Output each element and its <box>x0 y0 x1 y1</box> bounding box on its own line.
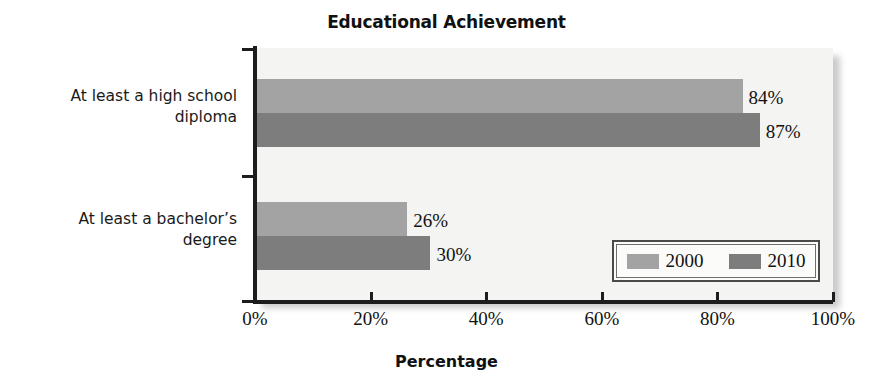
legend-entry-2010[interactable]: 2010 <box>729 250 806 272</box>
category-label-line-2: diploma <box>22 107 237 128</box>
bar-bachelors-2000[interactable] <box>257 202 407 236</box>
x-axis-tick <box>832 292 835 302</box>
chart-container: Educational Achievement At least a high … <box>0 0 893 391</box>
x-axis-tick <box>254 292 257 302</box>
y-axis-tick-middle <box>242 175 254 178</box>
legend-label-2010: 2010 <box>768 250 806 272</box>
bar-high-school-2000[interactable] <box>257 79 743 113</box>
bar-value-high-school-2010: 87% <box>766 121 801 143</box>
x-axis-tick <box>716 292 719 302</box>
legend-swatch-2010-icon <box>729 254 761 269</box>
x-axis-tick-label: 100% <box>811 308 855 330</box>
bar-value-bachelors-2000: 26% <box>413 210 448 232</box>
x-axis-tick-label: 80% <box>700 308 735 330</box>
bar-bachelors-2010[interactable] <box>257 236 430 270</box>
x-axis-tick-label: 60% <box>584 308 619 330</box>
chart-legend[interactable]: 2000 2010 <box>612 240 820 282</box>
y-axis-tick-bottom <box>242 300 254 303</box>
y-axis-tick-top <box>242 48 254 51</box>
y-axis-category-label-bachelors: At least a bachelor’s degree <box>22 209 237 251</box>
bar-high-school-2010[interactable] <box>257 113 760 147</box>
x-axis-tick-label: 0% <box>242 308 267 330</box>
x-axis-tick <box>601 292 604 302</box>
x-axis-tick <box>370 292 373 302</box>
category-label-line-1: At least a bachelor’s <box>22 209 237 230</box>
legend-entry-2000[interactable]: 2000 <box>627 250 704 272</box>
category-label-line-1: At least a high school <box>22 86 237 107</box>
x-axis-title: Percentage <box>0 352 893 371</box>
x-axis-tick <box>485 292 488 302</box>
x-axis-tick-label: 20% <box>353 308 388 330</box>
bar-value-bachelors-2010: 30% <box>436 244 471 266</box>
legend-swatch-2000-icon <box>627 254 659 269</box>
category-label-line-2: degree <box>22 230 237 251</box>
chart-title: Educational Achievement <box>0 12 893 32</box>
x-axis-line <box>253 300 833 304</box>
y-axis-category-label-high-school: At least a high school diploma <box>22 86 237 128</box>
bar-value-high-school-2000: 84% <box>749 87 784 109</box>
x-axis-tick-label: 40% <box>469 308 504 330</box>
legend-label-2000: 2000 <box>666 250 704 272</box>
